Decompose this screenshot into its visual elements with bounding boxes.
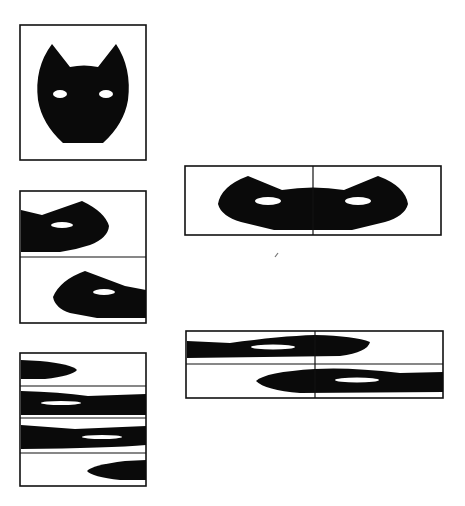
eye-bottom-row xyxy=(335,378,379,383)
panel-two-halves xyxy=(20,191,146,323)
left-eye xyxy=(255,197,281,205)
eye-top xyxy=(51,222,73,228)
eye-top-row xyxy=(251,345,295,350)
eye-bottom xyxy=(93,289,115,295)
stray-mark xyxy=(275,253,278,257)
right-eye xyxy=(99,90,113,98)
panel-whole-head xyxy=(20,25,146,160)
left-eye xyxy=(53,90,67,98)
panel-split-face xyxy=(185,166,441,235)
panel-strip-grid xyxy=(186,331,443,398)
right-eye xyxy=(345,197,371,205)
figure-canvas xyxy=(0,0,465,506)
eye-strip-2 xyxy=(41,401,81,405)
panel-four-strips xyxy=(20,353,146,486)
eye-strip-3 xyxy=(82,435,122,439)
